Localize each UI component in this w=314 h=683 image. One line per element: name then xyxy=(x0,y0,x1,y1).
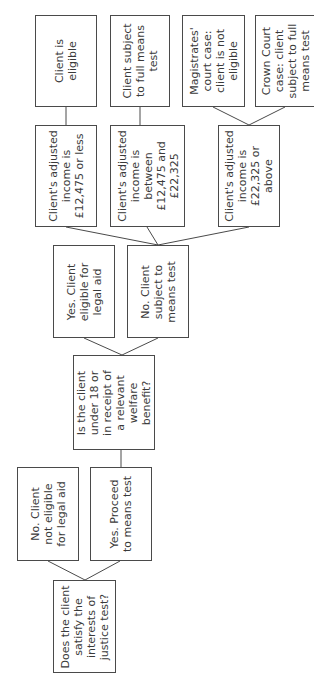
node-text: Client's adjusted income is between £12,… xyxy=(115,130,180,222)
node-eligible-for-legal-aid: Yes. Client eligible for legal aid xyxy=(53,245,115,338)
node-text: Client's adjusted income is £12,475 or l… xyxy=(47,130,86,222)
node-not-eligible: No. Client not eligible for legal aid xyxy=(17,467,79,561)
node-text: Client subject to full means test xyxy=(121,23,160,98)
node-magistrates-court: Magistrates' court case: client is not e… xyxy=(182,15,245,107)
node-text: Magistrates' court case: client is not e… xyxy=(188,27,240,94)
node-income-high: Client's adjusted income is £22,325 or a… xyxy=(218,125,280,227)
node-proceed-to-means-test: Yes. Proceed to means test xyxy=(90,467,152,561)
node-text: Yes. Client eligible for legal aid xyxy=(65,262,104,320)
node-text: Does the client satisfy the interests of… xyxy=(59,585,111,668)
node-crown-court: Crown Court case: client subject to full… xyxy=(255,15,314,107)
node-text: Is the client under 18 or in receipt of … xyxy=(75,370,153,436)
node-text: No. Client not eligible for legal aid xyxy=(29,481,68,547)
node-full-means-test: Client subject to full means test xyxy=(110,15,170,107)
node-text: Yes. Proceed to means test xyxy=(108,476,134,552)
node-under-18-question: Is the client under 18 or in receipt of … xyxy=(73,355,155,450)
node-text: No. Client subject to means test xyxy=(139,261,178,323)
node-income-low: Client's adjusted income is £12,475 or l… xyxy=(35,125,97,227)
node-client-eligible: Client is eligible xyxy=(35,15,97,107)
node-text: Crown Court case: client subject to full… xyxy=(260,24,312,99)
node-text: Client's adjusted income is £22,325 or a… xyxy=(223,130,275,222)
node-interests-of-justice-question: Does the client satisfy the interests of… xyxy=(53,580,116,673)
node-subject-to-means-test: No. Client subject to means test xyxy=(127,245,189,338)
node-income-mid: Client's adjusted income is between £12,… xyxy=(110,125,185,227)
node-text: Client is eligible xyxy=(53,39,79,83)
